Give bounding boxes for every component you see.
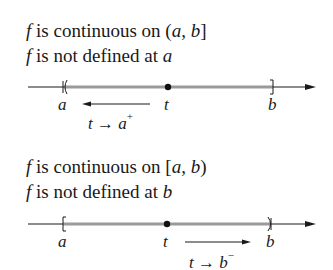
label-b: b — [266, 233, 275, 250]
number-lines — [0, 0, 333, 270]
axis-arrowhead-icon — [305, 84, 316, 90]
plus-superscript: + — [127, 110, 133, 122]
right-arrow-icon: → — [93, 114, 119, 133]
point-t — [165, 84, 171, 90]
right-arrowhead-icon — [242, 240, 251, 245]
left-arrowhead-icon — [82, 102, 91, 107]
right-arrow-icon: → — [194, 253, 220, 270]
limit-target: a — [118, 114, 127, 133]
limit-target: b — [219, 253, 228, 270]
label-b: b — [268, 96, 277, 113]
point-t — [164, 221, 170, 227]
label-a: a — [58, 96, 67, 113]
label-t: t — [163, 233, 168, 250]
label-t: t — [164, 96, 169, 113]
limit-expression: t → a+ — [88, 113, 133, 132]
label-a: a — [58, 233, 67, 250]
limit-expression: t → b− — [189, 252, 234, 270]
axis-arrowhead-icon — [305, 221, 316, 227]
minus-superscript: − — [228, 249, 234, 261]
